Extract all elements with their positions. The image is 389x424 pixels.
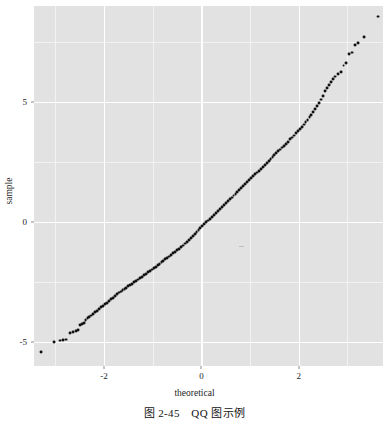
scatter-points [34, 6, 383, 366]
data-point [82, 322, 85, 325]
data-point [339, 71, 342, 74]
figure-caption: 图 2-45 QQ 图示例 [0, 404, 389, 420]
y-axis-label: sample [4, 161, 14, 221]
qq-plot-figure: 50-5 -202 sample theoretical 图 2-45 QQ 图… [0, 0, 389, 424]
paper-speck [239, 246, 244, 247]
data-point [326, 87, 329, 90]
x-tick-label: 2 [287, 371, 311, 381]
data-point [53, 341, 56, 344]
y-tick-mark [31, 342, 34, 343]
data-point [357, 42, 360, 45]
x-tick-mark [104, 366, 105, 369]
plot-panel [34, 6, 383, 366]
x-tick-label: 0 [189, 371, 213, 381]
data-point [76, 329, 79, 332]
data-point [342, 64, 345, 67]
data-point [314, 108, 317, 111]
data-point [351, 51, 354, 54]
data-point [376, 15, 379, 18]
data-point [345, 62, 348, 65]
data-point [64, 338, 67, 341]
data-point [363, 35, 366, 38]
data-point [316, 105, 319, 108]
data-point [322, 94, 325, 97]
data-point [329, 80, 332, 83]
y-tick-mark [31, 102, 34, 103]
y-tick-mark [31, 222, 34, 223]
y-tick-label: 5 [5, 97, 27, 107]
x-tick-label: -2 [92, 371, 116, 381]
x-tick-mark [201, 366, 202, 369]
data-point [39, 351, 42, 354]
data-point [324, 90, 327, 93]
x-axis-label: theoretical [0, 388, 389, 398]
x-tick-mark [298, 366, 299, 369]
data-point [320, 98, 323, 101]
data-point [312, 111, 315, 114]
data-point [328, 83, 331, 86]
data-point [310, 114, 313, 117]
y-tick-label: -5 [5, 337, 27, 347]
data-point [318, 102, 321, 105]
data-point [333, 75, 336, 78]
